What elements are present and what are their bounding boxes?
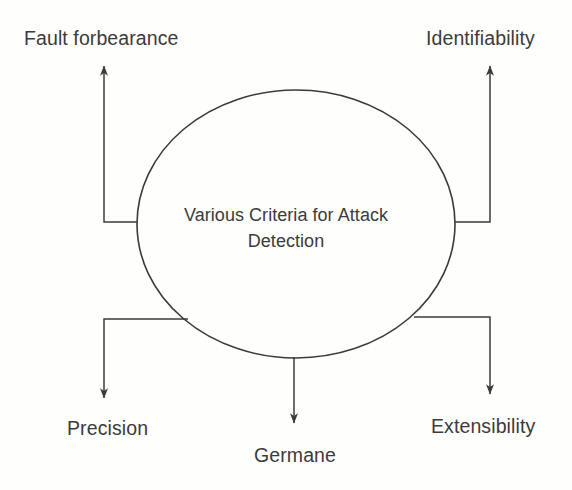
node-label-precision: Precision — [67, 418, 148, 440]
node-label-germane: Germane — [254, 445, 336, 467]
connector-precision — [104, 319, 188, 398]
diagram-canvas: Various Criteria for Attack Detection Fa… — [0, 0, 572, 490]
connector-extensibility — [414, 317, 490, 394]
central-node-label-line1: Various Criteria for Attack — [0, 203, 572, 229]
central-node-label-line2: Detection — [0, 229, 572, 255]
node-label-identifiability: Identifiability — [426, 28, 535, 50]
connector-fault-forbearance — [104, 66, 137, 222]
central-node-label: Various Criteria for Attack Detection — [0, 203, 572, 254]
node-label-fault-forbearance: Fault forbearance — [24, 28, 179, 50]
node-label-extensibility: Extensibility — [431, 416, 535, 438]
connector-identifiability — [455, 66, 490, 222]
